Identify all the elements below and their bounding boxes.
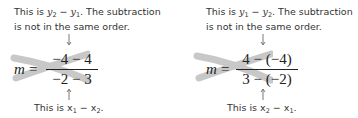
annotation-text: This is: [206, 6, 239, 17]
bottom-annotation: This is x2 − x1.: [227, 102, 297, 117]
slope-variable: m: [206, 61, 217, 78]
top-annotation: This is y2 − y1. The subtraction is not …: [14, 6, 161, 33]
annotation-text: This is: [227, 102, 260, 113]
down-arrow-icon: [260, 34, 266, 46]
minus: −: [270, 102, 284, 113]
annotation-text: .: [101, 102, 104, 113]
annotation-text: . The subtraction: [272, 6, 353, 17]
numerator: 4 − (−4): [236, 51, 298, 68]
denominator: 3 − (−2): [236, 71, 298, 88]
equals-sign: =: [29, 61, 37, 78]
annotation-text: is not in the same order.: [206, 21, 322, 32]
annotation-text: . The subtraction: [80, 6, 161, 17]
minus: −: [57, 6, 71, 17]
annotation-text: This is: [34, 102, 67, 113]
incorrect-example-left: This is y2 − y1. The subtraction is not …: [0, 0, 179, 118]
up-arrow-icon: [260, 88, 266, 100]
annotation-text: This is: [14, 6, 47, 17]
fraction: −4 − 4 −2 − 3: [46, 51, 98, 88]
top-annotation: This is y1 − y2. The subtraction is not …: [206, 6, 353, 33]
numerator: −4 − 4: [46, 51, 98, 68]
incorrect-example-right: This is y1 − y2. The subtraction is not …: [179, 0, 358, 118]
fraction-bar: [236, 69, 298, 70]
minus: −: [249, 6, 263, 17]
denominator: −2 − 3: [46, 71, 98, 88]
fraction: 4 − (−4) 3 − (−2): [236, 51, 298, 88]
up-arrow-icon: [66, 88, 72, 100]
annotation-text: .: [294, 102, 297, 113]
bottom-annotation: This is x1 − x2.: [34, 102, 104, 117]
minus: −: [77, 102, 91, 113]
fraction-bar: [46, 69, 98, 70]
down-arrow-icon: [66, 34, 72, 46]
equals-sign: =: [221, 61, 229, 78]
annotation-text: is not in the same order.: [14, 21, 130, 32]
slope-variable: m: [14, 61, 25, 78]
